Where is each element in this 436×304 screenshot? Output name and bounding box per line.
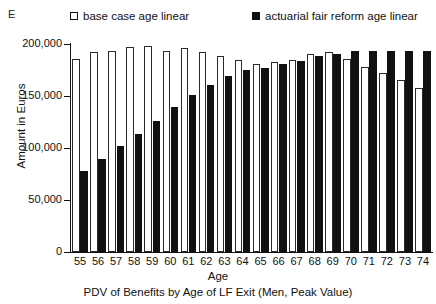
x-axis-tick-label: 60 [161,255,179,267]
bar-reform [135,134,143,252]
legend-item-base-case: base case age linear [70,10,189,22]
bar-reform [153,121,161,252]
x-axis-tick-label: 67 [288,255,306,267]
x-axis-tick-label: 56 [89,255,107,267]
bar-group [233,44,251,252]
bar-base-case [108,51,116,252]
x-axis-tick-label: 71 [360,255,378,267]
bar-base-case [126,47,134,252]
x-axis-tick-label: 70 [342,255,360,267]
x-axis-tick-label: 57 [107,255,125,267]
bar-reform [80,171,88,252]
bar-reform [98,159,106,252]
bar-base-case [415,88,423,252]
bar-reform [171,107,179,252]
filled-square-icon [252,12,260,20]
bar-base-case [379,73,387,252]
bar-reform [297,61,305,252]
y-axis-tick [64,148,71,149]
x-axis-tick-label: 66 [270,255,288,267]
bar-base-case [181,48,189,252]
bar-group [396,44,414,252]
bar-group [270,44,288,252]
bar-group [215,44,233,252]
y-axis-tick-label: 200,000 [4,38,62,49]
bar-base-case [72,59,80,252]
bar-reform [423,51,431,252]
bar-reform [117,146,125,252]
bar-base-case [343,59,351,252]
x-axis-tick-label: 65 [252,255,270,267]
bar-base-case [361,67,369,252]
x-axis-labels: 5556575859606162636465666768697071727374 [71,255,432,269]
bar-group [107,44,125,252]
x-axis-tick-label: 74 [414,255,432,267]
y-axis-tick [64,200,71,201]
bar-group [179,44,197,252]
bar-base-case [289,60,297,252]
x-axis-tick-label: 68 [306,255,324,267]
y-axis-tick [64,252,71,253]
bar-base-case [307,54,315,252]
bar-reform [243,70,251,252]
bar-group [288,44,306,252]
bar-group [360,44,378,252]
y-axis-tick-label: 50,000 [4,194,62,205]
y-axis-tick-label: 0 [4,246,62,257]
y-axis-labels: 050,000100,000150,000200,000 [0,0,62,304]
bar-reform [279,64,287,252]
x-axis-tick-label: 63 [215,255,233,267]
plot-area [71,44,432,252]
legend-label-base-case: base case age linear [83,10,189,22]
bar-reform [189,95,197,252]
chart-caption: PDV of Benefits by Age of LF Exit (Men, … [0,286,436,298]
bar-reform [351,51,359,252]
x-axis-tick-label: 69 [324,255,342,267]
bar-reform [333,54,341,252]
x-axis-tick-label: 58 [125,255,143,267]
bar-reform [387,51,395,252]
y-axis-title: Amount in Euros [15,51,27,201]
y-axis-tick [64,44,71,45]
bar-base-case [199,52,207,252]
x-axis-tick-label: 55 [71,255,89,267]
bar-group [125,44,143,252]
bar-reform [369,51,377,252]
x-axis-tick-label: 64 [233,255,251,267]
bar-group [161,44,179,252]
y-axis-tick-label: 100,000 [4,142,62,153]
legend-item-reform: actuarial fair reform age linear [252,10,418,22]
y-axis-tick [64,96,71,97]
bar-group [143,44,161,252]
bar-base-case [217,56,225,252]
chart-legend: base case age linear actuarial fair refo… [70,10,430,24]
bar-base-case [397,80,405,252]
x-axis-tick-label: 62 [197,255,215,267]
bar-group [197,44,215,252]
bar-reform [405,51,413,252]
legend-label-reform: actuarial fair reform age linear [265,10,418,22]
bar-reform [225,76,233,252]
bar-base-case [90,52,98,252]
x-axis-tick-label: 59 [143,255,161,267]
bar-group [342,44,360,252]
bar-group [378,44,396,252]
x-axis-tick-label: 61 [179,255,197,267]
bar-group [252,44,270,252]
bar-base-case [144,46,152,252]
bar-base-case [163,51,171,252]
x-axis-title: Age [0,270,436,282]
bar-group [324,44,342,252]
y-axis-tick-label: 150,000 [4,90,62,101]
bar-group [89,44,107,252]
x-axis-line [70,252,433,253]
bar-group [71,44,89,252]
bar-reform [261,68,269,252]
bar-base-case [235,60,243,252]
bar-group [306,44,324,252]
bar-reform [207,85,215,252]
open-square-icon [70,12,78,20]
bar-base-case [253,64,261,252]
bar-base-case [325,52,333,252]
bar-reform [315,56,323,252]
